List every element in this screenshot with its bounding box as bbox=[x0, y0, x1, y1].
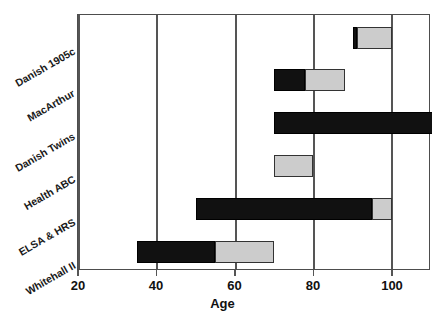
x-tick-mark-20 bbox=[77, 270, 79, 276]
y-axis-label-macarthur: MacArthur bbox=[26, 87, 77, 124]
bar-segment-dark bbox=[274, 69, 305, 91]
plot-area bbox=[77, 14, 430, 270]
y-axis-label-elsa-hrs: ELSA & HRS bbox=[16, 216, 77, 258]
bar-segment-light bbox=[274, 155, 313, 177]
bar-segment-dark bbox=[274, 112, 432, 134]
bar-segment-light bbox=[215, 241, 274, 263]
bar-segment-dark bbox=[137, 241, 216, 263]
x-tick-mark-100 bbox=[391, 270, 393, 276]
bar-segment-dark bbox=[196, 198, 373, 220]
gridline-100 bbox=[391, 15, 393, 269]
bar-row-elsa-hrs bbox=[78, 198, 429, 220]
x-tick-label-100: 100 bbox=[381, 278, 403, 293]
x-tick-mark-60 bbox=[234, 270, 236, 276]
y-axis-label-health-abc: Health ABC bbox=[21, 173, 77, 212]
x-tick-label-20: 20 bbox=[71, 278, 85, 293]
x-tick-mark-40 bbox=[156, 270, 158, 276]
bar-segment-light bbox=[357, 27, 392, 49]
gridline-60 bbox=[235, 15, 237, 269]
y-axis-label-danish-1905c: Danish 1905c bbox=[13, 45, 77, 89]
gridline-20 bbox=[78, 15, 80, 269]
y-axis-label-danish-twins: Danish Twins bbox=[13, 130, 77, 174]
bar-row-health-abc bbox=[78, 155, 429, 177]
y-axis-label-group: Danish 1905c MacArthur Danish Twins Heal… bbox=[0, 0, 77, 319]
gridline-80 bbox=[313, 15, 315, 269]
x-tick-label-60: 60 bbox=[227, 278, 241, 293]
chart-figure: Danish 1905c MacArthur Danish Twins Heal… bbox=[0, 0, 445, 319]
bar-row-macarthur bbox=[78, 69, 429, 91]
y-axis-label-whitehall-ii: Whitehall II bbox=[23, 259, 77, 297]
gridline-40 bbox=[156, 15, 158, 269]
bar-row-danish-1905c bbox=[78, 27, 429, 49]
bar-row-danish-twins bbox=[78, 112, 429, 134]
bar-row-whitehall-ii bbox=[78, 241, 429, 263]
x-tick-label-80: 80 bbox=[306, 278, 320, 293]
bar-segment-light bbox=[372, 198, 392, 220]
x-tick-mark-80 bbox=[313, 270, 315, 276]
x-tick-label-40: 40 bbox=[149, 278, 163, 293]
x-axis-title: Age bbox=[0, 296, 445, 311]
bar-segment-light bbox=[305, 69, 344, 91]
